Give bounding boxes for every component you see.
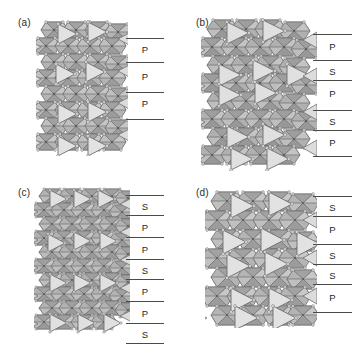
legend-label-p-3: P <box>313 138 352 148</box>
legend-divider <box>313 244 352 245</box>
legend-divider <box>313 284 352 285</box>
legend-label-p-3: P <box>126 99 164 109</box>
legend-label-p-2: P <box>126 72 164 82</box>
legend-divider <box>126 237 164 238</box>
legend-label-s-3: S <box>126 330 164 340</box>
crystal-structure-c <box>34 186 130 341</box>
legend-label-s-2: S <box>313 251 352 261</box>
legend-divider <box>313 216 352 217</box>
legend-label-p-1: P <box>126 223 164 233</box>
legend-divider <box>313 156 352 157</box>
legend-divider <box>313 80 352 81</box>
panel-a: (a) <box>0 0 179 175</box>
legend-divider <box>126 279 164 280</box>
legend-label-p-2: P <box>313 293 352 303</box>
legend-label-p-4: P <box>126 309 164 319</box>
legend-label-p-2: P <box>313 89 352 99</box>
legend-divider <box>126 323 164 324</box>
legend-divider <box>126 195 164 196</box>
panel-c-label: (c) <box>18 187 30 198</box>
panel-a-label: (a) <box>18 17 31 28</box>
crystal-structure-a <box>36 18 128 156</box>
legend-divider <box>126 119 164 120</box>
legend-label-p-1: P <box>126 45 164 55</box>
legend-divider <box>126 92 164 93</box>
panel-c: (c) <box>0 175 179 351</box>
legend-label-p-1: P <box>313 42 352 52</box>
legend-label-s-2: S <box>313 117 352 127</box>
legend-divider <box>313 264 352 265</box>
legend-label-s-1: S <box>313 203 352 213</box>
legend-divider <box>126 343 164 344</box>
legend-c: S P P S P P S <box>126 175 174 351</box>
legend-divider <box>126 259 164 260</box>
legend-a: P P P <box>126 0 176 175</box>
legend-label-p-1: P <box>313 225 352 235</box>
legend-divider <box>126 62 164 63</box>
legend-divider <box>313 312 352 313</box>
panel-b: (b) <box>179 0 359 175</box>
legend-label-s-1: S <box>126 202 164 212</box>
legend-divider <box>313 110 352 111</box>
legend-divider <box>313 130 352 131</box>
legend-label-s-3: S <box>313 271 352 281</box>
legend-divider <box>313 60 352 61</box>
legend-divider <box>126 215 164 216</box>
legend-d: S P S S P <box>313 175 359 351</box>
legend-label-p-3: P <box>126 287 164 297</box>
legend-b: P S P S P <box>313 0 359 175</box>
legend-divider <box>126 301 164 302</box>
crystal-structure-b <box>201 16 317 171</box>
legend-label-s-1: S <box>313 67 352 77</box>
legend-divider <box>313 34 352 35</box>
legend-divider <box>313 196 352 197</box>
legend-divider <box>126 38 164 39</box>
legend-label-p-2: P <box>126 245 164 255</box>
legend-label-s-2: S <box>126 266 164 276</box>
panel-d: (d) <box>179 175 359 351</box>
crystal-structure-d <box>205 188 317 328</box>
